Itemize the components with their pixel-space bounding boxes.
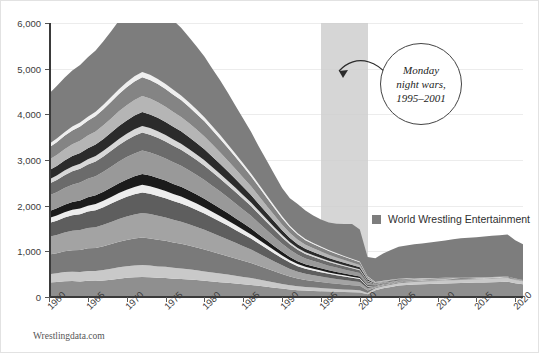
annotation-line-3: 1995–2001 [396, 91, 446, 105]
y-axis-tick-mark [45, 206, 49, 207]
legend-label-wwe: World Wrestling Entertainment [388, 213, 530, 225]
y-axis-tick-mark [45, 160, 49, 161]
y-axis-tick-mark [45, 114, 49, 115]
y-axis-line [49, 23, 51, 297]
annotation-bubble: Monday night wars, 1995–2001 [380, 43, 462, 125]
y-axis-tick-mark [45, 251, 49, 252]
y-axis-tick-label: 1,000 [3, 246, 41, 257]
annotation-line-1: Monday [396, 63, 446, 77]
y-axis-tick-label: 6,000 [3, 18, 41, 29]
y-axis-tick-label: 5,000 [3, 63, 41, 74]
y-axis-tick-mark [45, 69, 49, 70]
y-axis-tick-label: 2,000 [3, 200, 41, 211]
chart-figure: 01,0002,0003,0004,0005,0006,000 19601965… [0, 0, 539, 353]
legend: World Wrestling Entertainment [372, 213, 530, 225]
y-axis-tick-label: 4,000 [3, 109, 41, 120]
annotation-line-2: night wars, [396, 77, 446, 91]
legend-swatch-wwe [372, 215, 381, 224]
y-axis-tick-label: 3,000 [3, 155, 41, 166]
y-axis-tick-mark [45, 23, 49, 24]
y-axis-tick-label: 0 [3, 292, 41, 303]
source-note: Wrestlingdata.com [33, 331, 105, 341]
